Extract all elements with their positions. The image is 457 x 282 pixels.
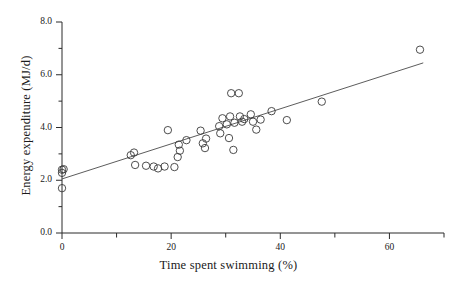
data-point-marker <box>150 163 157 170</box>
y-tick-label: 2.0 <box>22 174 52 184</box>
data-point-marker <box>416 46 423 53</box>
y-tick-label: 4.0 <box>22 122 52 132</box>
data-point-marker <box>283 116 290 123</box>
data-point-marker <box>161 163 168 170</box>
x-tick-label: 0 <box>42 242 82 252</box>
data-point-marker <box>235 90 242 97</box>
x-tick-label: 60 <box>369 242 409 252</box>
data-point-marker <box>201 144 208 151</box>
regression-line <box>62 63 423 179</box>
x-tick-label: 40 <box>260 242 300 252</box>
data-point-marker <box>131 161 138 168</box>
data-point-marker <box>225 134 232 141</box>
y-tick-label: 8.0 <box>22 16 52 26</box>
data-point-marker <box>171 163 178 170</box>
data-point-marker <box>257 116 264 123</box>
data-point-marker <box>247 111 254 118</box>
data-point-marker <box>197 127 204 134</box>
data-point-marker <box>223 121 230 128</box>
plot-canvas <box>0 0 457 282</box>
data-point-marker <box>164 126 171 133</box>
data-point-marker <box>253 126 260 133</box>
x-tick-label: 20 <box>151 242 191 252</box>
data-point-marker <box>227 90 234 97</box>
y-tick-label: 6.0 <box>22 69 52 79</box>
data-point-marker <box>230 146 237 153</box>
y-tick-label: 0.0 <box>22 227 52 237</box>
data-point-marker <box>217 130 224 137</box>
scatter-plot-figure: Energy expenditure (MJ/d) Time spent swi… <box>0 0 457 282</box>
x-axis-title: Time spent swimming (%) <box>0 258 457 273</box>
data-point-marker <box>249 118 256 125</box>
data-point-marker <box>318 98 325 105</box>
data-point-marker <box>142 162 149 169</box>
